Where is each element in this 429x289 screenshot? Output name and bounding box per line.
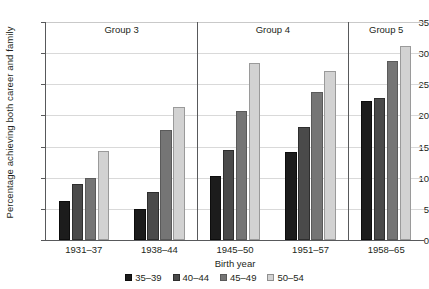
bar [236, 111, 248, 240]
group-header: Group 3 [104, 24, 138, 35]
bar [72, 184, 84, 240]
gridline [46, 22, 424, 23]
bar [147, 192, 159, 240]
bar [387, 61, 399, 240]
x-axis-title: Birth year [215, 258, 256, 269]
y-axis-title-text: Percentage achieving both career and fam… [4, 26, 15, 218]
plot-area [46, 22, 424, 240]
bar [311, 92, 323, 240]
legend-swatch-icon [173, 274, 180, 281]
x-tick-label: 1945–50 [217, 244, 254, 255]
x-tick-label: 1931–37 [65, 244, 102, 255]
bar [98, 151, 110, 240]
bar [324, 71, 336, 240]
legend-label: 40–44 [183, 272, 209, 283]
bar-chart: Percentage achieving both career and fam… [0, 0, 429, 289]
legend-item[interactable]: 35–39 [125, 272, 161, 283]
y-axis-title: Percentage achieving both career and fam… [0, 0, 18, 245]
legend-item[interactable]: 40–44 [173, 272, 209, 283]
bar [298, 127, 310, 240]
legend-label: 50–54 [277, 272, 303, 283]
bar [210, 176, 222, 240]
bar [249, 63, 261, 241]
legend: 35–3940–4445–4950–54 [0, 272, 429, 283]
x-tick-label: 1938–44 [141, 244, 178, 255]
gridline [46, 53, 424, 54]
legend-label: 45–49 [230, 272, 256, 283]
group-divider [348, 22, 349, 241]
bar [374, 98, 386, 240]
group-header: Group 5 [369, 24, 403, 35]
bar [361, 101, 373, 240]
legend-label: 35–39 [135, 272, 161, 283]
bar [285, 152, 297, 240]
x-axis-line [45, 240, 424, 241]
gridline [46, 84, 424, 85]
legend-swatch-icon [220, 274, 227, 281]
x-tick-label: 1958–65 [368, 244, 405, 255]
bar [173, 107, 185, 240]
group-header: Group 4 [256, 24, 290, 35]
x-tick-label: 1951–57 [292, 244, 329, 255]
legend-swatch-icon [267, 274, 274, 281]
bar [223, 150, 235, 240]
legend-swatch-icon [125, 274, 132, 281]
bar [59, 201, 71, 240]
legend-item[interactable]: 50–54 [267, 272, 303, 283]
legend-item[interactable]: 45–49 [220, 272, 256, 283]
bar [134, 209, 146, 240]
bar [85, 178, 97, 240]
group-divider [197, 22, 198, 241]
bar [400, 46, 412, 240]
bar [160, 130, 172, 240]
